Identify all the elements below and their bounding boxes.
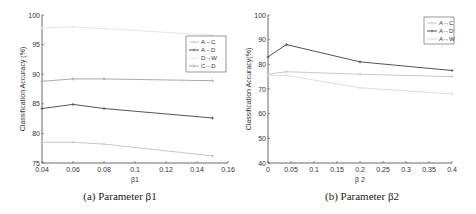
x-tick-label: 0.25 xyxy=(376,166,390,173)
legend-entry: A→D xyxy=(201,47,216,53)
figure-caption: (a) Parameter β1 xyxy=(83,190,156,203)
legend: A→CA→DD→WC→D xyxy=(186,36,226,72)
chart-beta2: 40506070809010000.050.10.150.20.250.30.3… xyxy=(245,12,457,204)
y-tick-label: 40 xyxy=(258,160,266,167)
x-tick-label: 0.1 xyxy=(130,166,140,173)
y-tick-label: 90 xyxy=(258,36,266,43)
series-line xyxy=(41,141,215,158)
chart-beta1: 75808590951000.040.060.080.10.120.140.16… xyxy=(19,12,235,204)
y-tick-label: 95 xyxy=(32,41,40,48)
x-tick-label: 0.15 xyxy=(330,166,344,173)
x-tick-label: 0.08 xyxy=(97,166,111,173)
legend-entry: C→D xyxy=(201,63,216,69)
legend-entry: A→W xyxy=(439,36,455,42)
legend-entry: A→D xyxy=(439,28,454,34)
x-tick-label: 0.1 xyxy=(309,166,319,173)
y-tick-label: 90 xyxy=(32,71,40,78)
series-line xyxy=(267,43,454,72)
y-tick-label: 50 xyxy=(258,135,266,142)
y-tick-label: 70 xyxy=(258,86,266,93)
figure-caption: (b) Parameter β2 xyxy=(325,190,399,203)
x-tick-label: 0.2 xyxy=(355,166,365,173)
y-tick-label: 80 xyxy=(32,130,40,137)
figure: 75808590951000.040.060.080.10.120.140.16… xyxy=(0,0,476,214)
x-tick-label: 0.3 xyxy=(401,166,411,173)
x-tick-label: 0.14 xyxy=(190,166,204,173)
y-tick-label: 100 xyxy=(254,12,266,19)
y-tick-label: 60 xyxy=(258,110,266,117)
y-tick-label: 100 xyxy=(28,12,40,19)
x-tick-label: 0.16 xyxy=(221,166,235,173)
x-tick-label: 0.05 xyxy=(284,166,298,173)
chart-canvas: 75808590951000.040.060.080.10.120.140.16… xyxy=(0,0,476,214)
legend-entry: D→W xyxy=(201,55,217,61)
x-tick-label: 0.4 xyxy=(447,166,457,173)
y-tick-label: 80 xyxy=(258,61,266,68)
y-tick-label: 85 xyxy=(32,100,40,107)
legend-entry: A→C xyxy=(201,39,216,45)
legend-entry: A→C xyxy=(439,20,454,26)
x-tick-label: 0.06 xyxy=(66,166,80,173)
series-line xyxy=(267,74,454,96)
x-tick-label: 0 xyxy=(266,166,270,173)
x-axis-label: β1 xyxy=(131,176,139,184)
x-tick-label: 0.12 xyxy=(159,166,173,173)
series-line xyxy=(41,25,215,36)
legend: A→CA→DA→W xyxy=(424,17,455,44)
series-line xyxy=(41,103,215,120)
x-tick-label: 0.04 xyxy=(35,166,49,173)
x-tick-label: 0.35 xyxy=(422,166,436,173)
y-axis-label: Classification Accuracy(%) xyxy=(245,48,253,130)
series-line xyxy=(41,77,215,82)
x-axis-label: β 2 xyxy=(355,176,365,184)
y-axis-label: Classification Accuracy (%) xyxy=(19,47,27,131)
